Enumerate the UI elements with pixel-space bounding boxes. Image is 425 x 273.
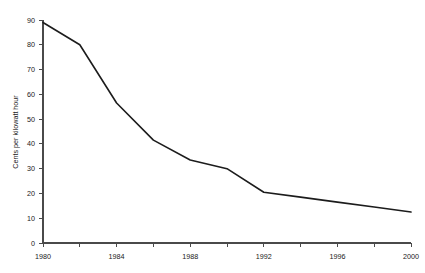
y-tick-label: 20 [27,189,35,198]
y-tick-label: 80 [27,40,35,49]
x-tick-label: 2000 [403,252,419,261]
x-tick-label: 1980 [35,252,51,261]
y-tick-label: 90 [27,16,35,25]
y-tick-label: 0 [31,239,35,248]
x-tick-label: 1984 [109,252,125,261]
y-tick-label: 50 [27,115,35,124]
y-axis-ticks: 0102030405060708090 [27,16,43,248]
chart-axes [43,20,411,243]
y-axis-title-label: Cents per kilowatt hour [11,95,20,169]
chart-canvas: Cents per kilowatt hour 0102030405060708… [0,0,425,273]
y-axis-title: Cents per kilowatt hour [11,95,20,169]
data-series-group [43,22,411,212]
y-tick-label: 60 [27,90,35,99]
x-tick-label: 1996 [329,252,345,261]
y-tick-label: 40 [27,139,35,148]
x-tick-label: 1988 [182,252,198,261]
series-line [43,22,411,212]
line-chart: Cents per kilowatt hour 0102030405060708… [0,0,425,273]
y-tick-label: 10 [27,214,35,223]
x-axis-ticks: 198019841988199219962000 [35,243,419,261]
x-tick-label: 1992 [256,252,272,261]
y-tick-label: 30 [27,164,35,173]
y-tick-label: 70 [27,65,35,74]
